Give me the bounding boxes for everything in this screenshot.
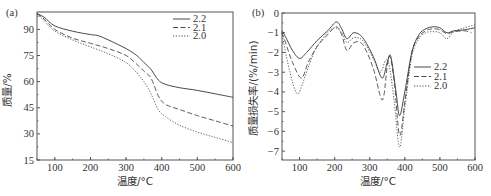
x-tick-label: 200 [327, 162, 343, 173]
x-tick-label: 200 [83, 162, 99, 173]
y-tick-label: 45 [24, 102, 35, 113]
x-tick-label: 500 [189, 162, 205, 173]
y-tick-label: 15 [24, 155, 35, 166]
y-tick-label: −1 [268, 27, 279, 38]
x-tick-label: 300 [362, 162, 378, 173]
x-tick-label: 500 [432, 162, 448, 173]
legend-label: 2.0 [434, 80, 447, 91]
x-tick-label: 600 [225, 162, 241, 173]
y-tick-label: 0 [274, 8, 279, 19]
panel-a-label: (a) [6, 7, 18, 19]
y-tick-label: 60 [24, 76, 35, 87]
x-axis-title-a: 温度/°C [117, 175, 153, 187]
y-tick-label: −5 [268, 106, 279, 117]
y-axis-title-a: 质量/% [1, 73, 13, 107]
panel-a-mass-curve: (a) 100200300400500600 153045607590 2.22… [1, 7, 241, 187]
x-axis-a: 100200300400500600 [37, 157, 241, 173]
legend-label: 2.0 [193, 30, 206, 41]
x-tick-label: 100 [47, 162, 63, 173]
legend-a: 2.22.12.0 [173, 13, 206, 41]
panel-b-dtg-curve: (b) 100200300400500600 0−1−2−3−4−5−6−7 2… [247, 7, 483, 187]
y-tick-label: −4 [268, 86, 280, 97]
x-axis-b: 100200300400500600 [282, 157, 483, 173]
y-tick-label: 30 [24, 128, 35, 139]
x-tick-label: 400 [154, 162, 170, 173]
x-axis-title-b: 温度/°C [360, 175, 396, 187]
x-tick-label: 400 [397, 162, 413, 173]
y-tick-label: 90 [24, 24, 35, 35]
legend-b: 2.22.12.0 [414, 61, 447, 91]
y-tick-label: −3 [268, 67, 279, 78]
y-axis-a: 153045607590 [24, 16, 41, 165]
x-tick-label: 600 [467, 162, 483, 173]
panel-b-label: (b) [252, 7, 265, 19]
y-axis-title-b: 质量损失率/(%/min) [247, 40, 259, 135]
y-tick-label: −7 [268, 146, 279, 157]
figure: (a) 100200300400500600 153045607590 2.22… [0, 0, 491, 196]
x-tick-label: 100 [292, 162, 308, 173]
y-tick-label: 75 [24, 50, 35, 61]
x-tick-label: 300 [118, 162, 134, 173]
y-tick-label: −6 [268, 126, 279, 137]
y-tick-label: −2 [268, 47, 279, 58]
